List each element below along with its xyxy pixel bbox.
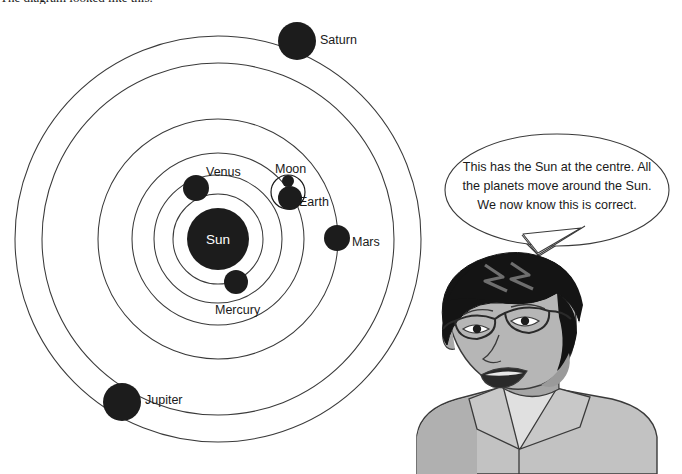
solar-system-figure-page: The diagram looked like this. SunMercury… [0, 0, 682, 474]
speech-bubble-text: This has the Sun at the centre. All the … [461, 158, 653, 215]
person-illustration-svg [407, 249, 682, 474]
mercury-label: Mercury [215, 303, 261, 317]
person-illustration [407, 249, 682, 474]
earth-label: Earth [299, 195, 329, 209]
mercury-body [224, 270, 248, 294]
celestial-bodies-group [103, 22, 350, 421]
moon-label: Moon [275, 162, 306, 176]
mars-label: Mars [352, 235, 380, 249]
sun-label: Sun [206, 232, 230, 247]
moon-body [282, 175, 294, 187]
solar-system-svg: SunMercuryVenusEarthMoonMarsJupiterSatur… [0, 0, 440, 474]
person-torso [417, 386, 657, 474]
saturn-label: Saturn [320, 33, 357, 47]
mars-body [324, 225, 350, 251]
shirt-shadow-left [417, 395, 477, 474]
venus-label: Venus [206, 165, 241, 179]
speech-bubble: This has the Sun at the centre. All the … [443, 132, 671, 260]
solar-system-diagram: SunMercuryVenusEarthMoonMarsJupiterSatur… [0, 0, 440, 474]
jupiter-label: Jupiter [145, 393, 183, 407]
jupiter-body [103, 383, 141, 421]
saturn-body [278, 22, 316, 60]
